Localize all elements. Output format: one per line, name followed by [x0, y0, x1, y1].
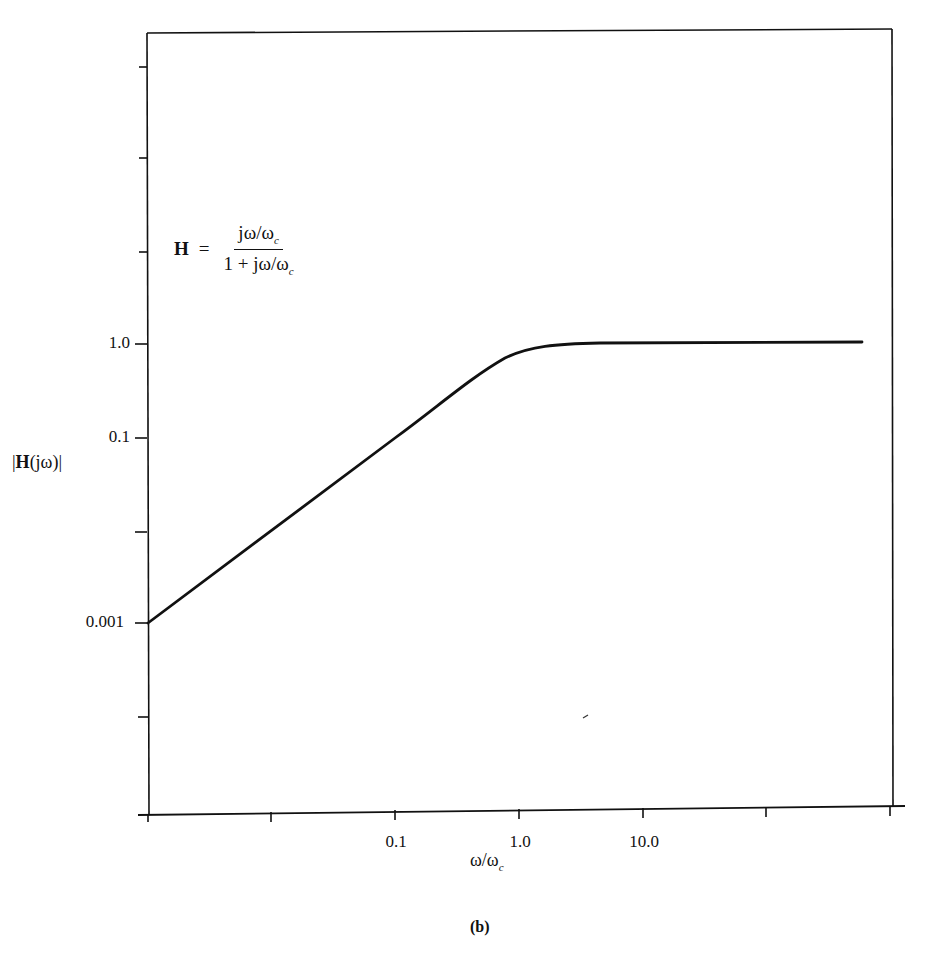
bode-magnitude-figure: 1.0 0.1 0.001 |H(jω)| 0.1 1.0 10.0 ω/ωc … — [0, 0, 929, 955]
y-tick-label-0.1: 0.1 — [50, 427, 130, 447]
formula-lhs: H — [174, 238, 189, 260]
y-axis-label: |H(jω)| — [12, 452, 62, 473]
y-ticks — [135, 67, 148, 717]
y-tick-label-0.001: 0.001 — [44, 612, 124, 632]
x-tick-label-1.0: 1.0 — [490, 832, 550, 852]
stray-mark — [583, 715, 588, 718]
y-axis-line — [147, 33, 149, 814]
numerator-sub: c — [274, 234, 279, 246]
numerator-text: jω/ω — [238, 222, 274, 243]
denominator-text: 1 + jω/ω — [224, 253, 289, 274]
x-axis-line — [138, 806, 905, 815]
x-tick-label-10.0: 10.0 — [614, 832, 674, 852]
y-tick-label-1.0: 1.0 — [50, 333, 130, 353]
denominator-sub: c — [289, 265, 294, 277]
x-label-text: ω/ω — [470, 850, 499, 870]
transfer-function-annotation: H = jω/ωc 1 + jω/ωc — [174, 222, 298, 277]
right-border — [892, 29, 893, 806]
panel-label: (b) — [470, 918, 490, 936]
x-axis-label: ω/ωc — [470, 850, 504, 873]
x-tick-label-0.1: 0.1 — [366, 832, 426, 852]
formula-equals: = — [199, 238, 210, 260]
y-label-H: H — [16, 452, 30, 472]
formula-numerator: jω/ωc — [234, 222, 282, 250]
top-border — [147, 29, 892, 33]
formula-denominator: 1 + jω/ωc — [220, 250, 298, 277]
y-label-rest: (jω)| — [30, 452, 62, 472]
formula-fraction: jω/ωc 1 + jω/ωc — [220, 222, 298, 277]
x-label-sub: c — [499, 861, 504, 873]
magnitude-curve — [148, 342, 862, 623]
plot-area — [0, 0, 929, 955]
